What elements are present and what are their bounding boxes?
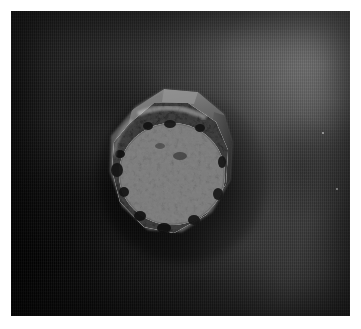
crystal-specimen	[102, 84, 258, 246]
photograph	[11, 11, 350, 316]
background-speck-1	[322, 132, 324, 134]
background-speck-2	[336, 188, 338, 190]
page-canvas	[0, 0, 361, 329]
